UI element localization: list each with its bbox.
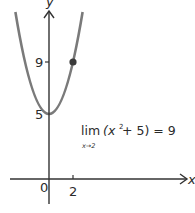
x-axis-label: x [187,172,195,187]
x-tick-label-0: 0 [40,180,48,195]
x-tick-label-2: 2 [69,184,77,199]
limit-graph: y x 0 2 5 9 lim x→2 (x 2 + 5) = 9 [0,0,195,213]
lim-expr-open: (x [103,123,116,138]
y-tick-label-5: 5 [35,107,43,122]
lim-text: lim [81,123,100,138]
limit-annotation: lim x→2 (x 2 + 5) = 9 [81,123,176,150]
lim-expr-close: + 5) = 9 [122,123,176,138]
y-axis-label: y [45,0,54,9]
point-2-9 [69,58,76,65]
lim-subscript: x→2 [81,142,95,150]
y-tick-label-9: 9 [35,55,43,70]
